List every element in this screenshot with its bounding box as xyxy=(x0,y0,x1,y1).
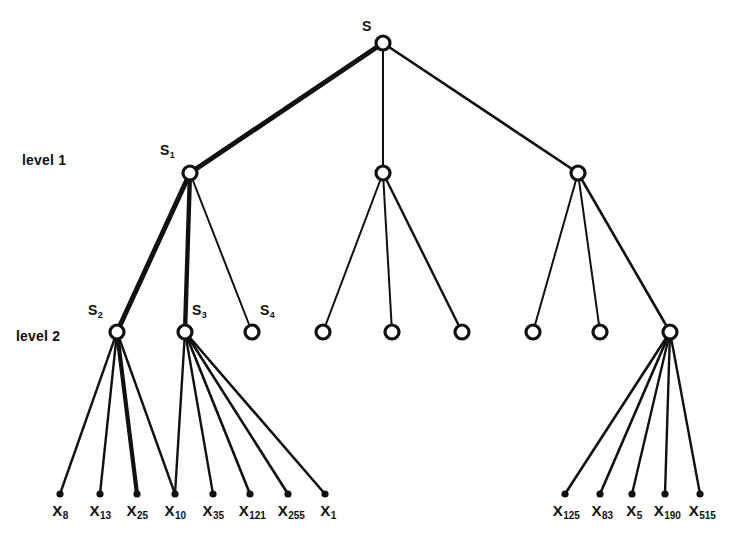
node-label-s1: S1 xyxy=(160,142,174,158)
tree-edge xyxy=(185,332,250,494)
node-label-s4: S4 xyxy=(260,302,274,318)
level2-node-s4[interactable] xyxy=(245,325,259,339)
tree-edge xyxy=(578,173,600,332)
tree-edge xyxy=(323,173,383,332)
tree-edge xyxy=(632,332,670,494)
leaf-node-dot[interactable] xyxy=(561,490,568,497)
level2-node-m2[interactable] xyxy=(385,325,399,339)
tree-edge xyxy=(185,332,325,494)
leaf-label-x13: X13 xyxy=(89,502,110,519)
leaf-node-dot[interactable] xyxy=(56,490,63,497)
leaf-node-dot[interactable] xyxy=(209,490,216,497)
leaf-label-x25: X25 xyxy=(126,502,147,519)
level2-node-r2[interactable] xyxy=(593,325,607,339)
node-label-s2: S2 xyxy=(88,302,102,318)
leaf-label-x121: X121 xyxy=(239,502,266,519)
level2-node-s2[interactable] xyxy=(110,325,124,339)
leaf-node-dot[interactable] xyxy=(96,490,103,497)
leaf-node-dot[interactable] xyxy=(171,490,178,497)
tree-edge xyxy=(578,173,670,332)
tree-edge xyxy=(117,173,190,332)
root-node-s[interactable] xyxy=(376,36,390,50)
level2-node-m3[interactable] xyxy=(455,325,469,339)
node-label-s3: S3 xyxy=(192,302,206,318)
tree-edge xyxy=(175,332,185,494)
level2-node-s3[interactable] xyxy=(178,325,192,339)
tree-edge xyxy=(565,332,670,494)
leaf-label-x8: X8 xyxy=(52,502,68,519)
tree-edge xyxy=(185,173,190,332)
leaf-label-x35: X35 xyxy=(202,502,223,519)
leaf-node-dot[interactable] xyxy=(133,490,140,497)
leaf-dots-layer xyxy=(56,490,703,497)
tree-edge xyxy=(383,173,462,332)
tree-edge xyxy=(665,332,670,494)
leaf-label-x5: X5 xyxy=(626,502,642,519)
leaf-node-dot[interactable] xyxy=(321,490,328,497)
leaf-label-x515: X515 xyxy=(689,502,716,519)
leaf-label-x1: X1 xyxy=(320,502,336,519)
leaf-label-x190: X190 xyxy=(654,502,681,519)
tree-edge xyxy=(185,332,288,494)
leaf-label-x255: X255 xyxy=(278,502,305,519)
leaf-node-dot[interactable] xyxy=(246,490,253,497)
level2-node-r1[interactable] xyxy=(526,325,540,339)
tree-edge xyxy=(190,43,383,173)
leaf-label-x83: X83 xyxy=(591,502,612,519)
leaf-label-x10: X10 xyxy=(164,502,185,519)
edges-layer xyxy=(60,43,700,494)
leaf-node-dot[interactable] xyxy=(696,490,703,497)
tree-edge xyxy=(670,332,700,494)
tree-edge xyxy=(117,332,137,494)
leaf-node-dot[interactable] xyxy=(596,490,603,497)
tree-edge xyxy=(383,43,578,173)
leaf-label-x125: X125 xyxy=(553,502,580,519)
tree-edge xyxy=(600,332,670,494)
level2-node-m1[interactable] xyxy=(316,325,330,339)
level-2-label: level 2 xyxy=(16,328,60,344)
leaf-node-dot[interactable] xyxy=(284,490,291,497)
level1-node-l1c[interactable] xyxy=(571,166,585,180)
level1-node-l1b[interactable] xyxy=(376,166,390,180)
leaf-node-dot[interactable] xyxy=(628,490,635,497)
tree-diagram-canvas: X8X13X25X10X35X121X255X1X125X83X5X190X51… xyxy=(0,0,750,537)
node-label-s: S xyxy=(362,18,371,34)
tree-svg xyxy=(0,0,750,537)
tree-edge xyxy=(383,173,392,332)
level1-node-s1[interactable] xyxy=(183,166,197,180)
tree-edge xyxy=(533,173,578,332)
leaf-node-dot[interactable] xyxy=(661,490,668,497)
level-1-label: level 1 xyxy=(22,152,66,168)
level2-node-r3[interactable] xyxy=(663,325,677,339)
